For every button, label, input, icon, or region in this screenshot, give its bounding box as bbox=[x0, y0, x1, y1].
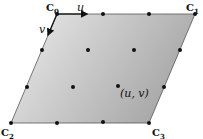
grid-point bbox=[178, 48, 182, 52]
v-label: v bbox=[39, 23, 46, 36]
grid-point bbox=[132, 48, 136, 52]
grid-point bbox=[101, 120, 105, 124]
grid-point bbox=[101, 12, 105, 16]
u-label: u bbox=[77, 1, 84, 14]
grid-point bbox=[25, 85, 29, 89]
grid-point bbox=[86, 48, 90, 52]
grid-point bbox=[55, 121, 59, 125]
parallelogram-diagram: u v (u, v) C0C1C2C3 bbox=[0, 0, 203, 139]
grid-point bbox=[40, 48, 44, 52]
corner-label-c3: C3 bbox=[152, 127, 165, 139]
corner-label-c0: C0 bbox=[46, 2, 59, 16]
grid-point bbox=[71, 85, 75, 89]
corner-label-c2: C2 bbox=[1, 127, 14, 139]
grid-point bbox=[147, 12, 151, 16]
grid-point bbox=[147, 121, 151, 125]
grid-point bbox=[9, 121, 13, 125]
uv-point-label: (u, v) bbox=[120, 87, 149, 100]
grid-point bbox=[162, 85, 166, 89]
